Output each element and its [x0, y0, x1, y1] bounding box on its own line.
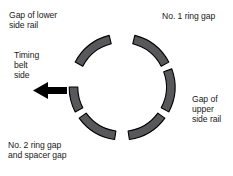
label-no1-ring-gap: No. 1 ring gap [162, 11, 215, 21]
arrow-left-icon [33, 82, 67, 99]
arc-segment-6 [75, 35, 111, 66]
label-no2-ring-gap-and-spacer-gap: No. 2 ring gap and spacer gap [8, 140, 67, 160]
arc-segment-4 [79, 113, 116, 139]
timing-belt-direction-arrow [33, 82, 67, 99]
label-timing-belt-side: Timing belt side [14, 50, 39, 81]
ring-segments [69, 35, 175, 139]
arc-segment-5 [69, 87, 83, 112]
label-gap-of-lower-side-rail: Gap of lower side rail [9, 10, 57, 30]
arc-segment-3 [128, 113, 165, 139]
label-gap-of-upper-side-rail: Gap of upper side rail [192, 94, 221, 125]
arc-segment-2 [161, 69, 175, 112]
arc-segment-1 [133, 35, 169, 66]
ring-gap-diagram: Gap of lower side rail No. 1 ring gap Ti… [0, 0, 233, 176]
